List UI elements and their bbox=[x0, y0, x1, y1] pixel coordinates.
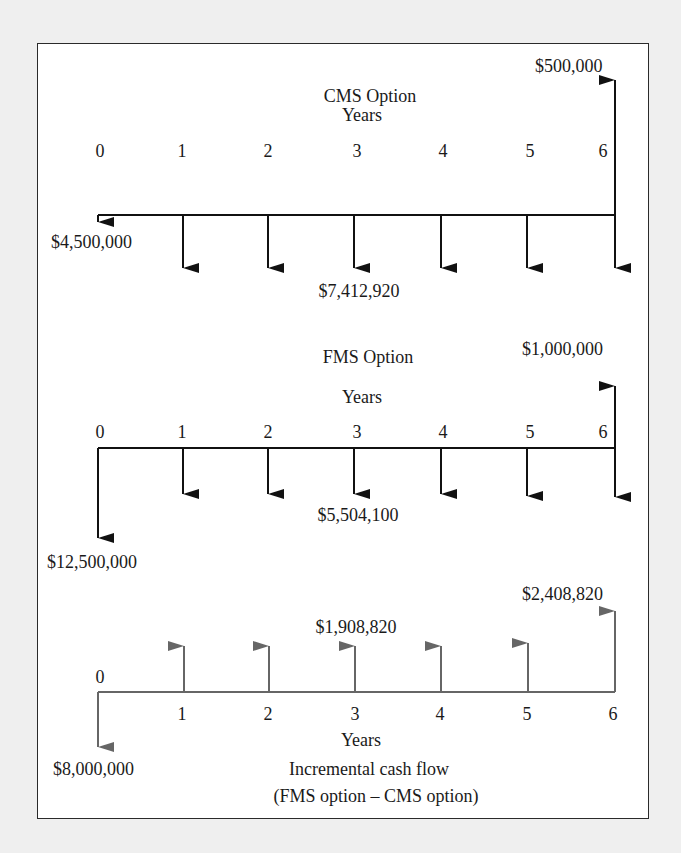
cms-year-6: 6 bbox=[599, 142, 608, 160]
inc-axis-label: Years bbox=[341, 731, 381, 749]
cms-initial-cost: $4,500,000 bbox=[51, 233, 132, 251]
fms-title: FMS Option bbox=[323, 348, 414, 366]
cms-year-3: 3 bbox=[353, 142, 362, 160]
fms-year-4: 4 bbox=[439, 423, 448, 441]
fms-salvage-label: $1,000,000 bbox=[522, 340, 603, 358]
cms-year-5: 5 bbox=[526, 142, 535, 160]
inc-initial-label: $8,000,000 bbox=[53, 760, 134, 778]
fms-year-5: 5 bbox=[526, 423, 535, 441]
cms-year-1: 1 bbox=[178, 142, 187, 160]
cms-title: CMS Option bbox=[324, 87, 417, 105]
fms-year-2: 2 bbox=[264, 423, 273, 441]
inc-subtitle: (FMS option – CMS option) bbox=[273, 787, 478, 805]
inc-year-5: 5 bbox=[523, 705, 532, 723]
inc-year-3: 3 bbox=[351, 705, 360, 723]
fms-axis-label: Years bbox=[342, 388, 382, 406]
fms-year-1: 1 bbox=[178, 423, 187, 441]
cms-salvage-label: $500,000 bbox=[535, 57, 603, 75]
incremental-annual-label: $1,908,820 bbox=[316, 618, 397, 636]
cms-annual-cost: $7,412,920 bbox=[319, 282, 400, 300]
cms-year-4: 4 bbox=[439, 142, 448, 160]
inc-title: Incremental cash flow bbox=[289, 760, 449, 778]
cms-axis-label: Years bbox=[342, 106, 382, 124]
cms-year-0: 0 bbox=[96, 142, 105, 160]
inc-year-0: 0 bbox=[96, 668, 105, 686]
fms-initial-cost: $12,500,000 bbox=[47, 553, 137, 571]
cms-year-2: 2 bbox=[264, 142, 273, 160]
inc-year-4: 4 bbox=[436, 705, 445, 723]
fms-year-0: 0 bbox=[96, 423, 105, 441]
fms-year-6: 6 bbox=[599, 423, 608, 441]
inc-year-1: 1 bbox=[178, 705, 187, 723]
inc-year-2: 2 bbox=[264, 705, 273, 723]
inc-year-6: 6 bbox=[609, 705, 618, 723]
fms-year-3: 3 bbox=[353, 423, 362, 441]
fms-annual-cost: $5,504,100 bbox=[318, 506, 399, 524]
incremental-final-label: $2,408,820 bbox=[522, 585, 603, 603]
